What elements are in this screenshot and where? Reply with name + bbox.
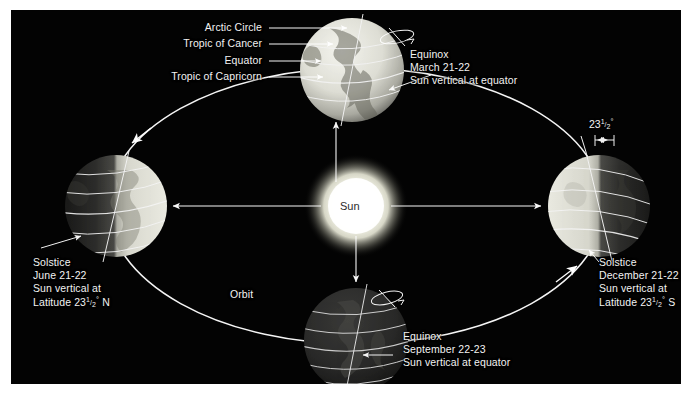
label-sun: Sun: [340, 200, 360, 212]
label-orbit: Orbit: [230, 288, 253, 301]
globe-december-solstice: [540, 135, 658, 265]
globe-september-equinox: [301, 284, 413, 384]
callout-tropic-of-cancer-label: Tropic of Cancer: [183, 37, 262, 49]
axis-tilt-degree-symbol: °: [610, 117, 613, 126]
label-june-solstice: Solstice June 21-22 Sun vertical at Lati…: [33, 256, 110, 309]
march-equinox-line2: March 21-22: [410, 61, 517, 74]
june-hemisphere: N: [99, 296, 110, 308]
december-solstice-line3: Sun vertical at: [599, 282, 679, 295]
december-latitude-prefix: Latitude 23: [599, 296, 652, 308]
september-equinox-line3: Sun vertical at equator: [403, 356, 510, 369]
december-solstice-line4: Latitude 231/2° S: [599, 296, 679, 309]
june-solstice-line4: Latitude 231/2° N: [33, 296, 110, 309]
december-latitude-fraction: 1/2: [652, 299, 662, 306]
callout-arctic-circle: Arctic Circle: [205, 21, 262, 34]
callout-equator-label: Equator: [225, 54, 262, 66]
callout-tropic-of-capricorn: Tropic of Capricorn: [171, 70, 262, 83]
december-solstice-line1: Solstice: [599, 256, 679, 269]
june-solstice-line2: June 21-22: [33, 269, 110, 282]
september-equinox-line1: Equinox: [403, 330, 510, 343]
sun-label: Sun: [340, 200, 360, 212]
december-hemisphere: S: [665, 296, 675, 308]
june-solstice-line1: Solstice: [33, 256, 110, 269]
december-solstice-line2: December 21-22: [599, 269, 679, 282]
axis-tilt-marker: [581, 135, 614, 152]
june-latitude-prefix: Latitude 23: [33, 296, 86, 308]
diagram-plate: Arctic Circle Tropic of Cancer Equator T…: [11, 10, 681, 384]
axis-tilt-value: 23: [589, 118, 601, 130]
globe-march-equinox: [293, 14, 415, 126]
callout-tropic-of-capricorn-label: Tropic of Capricorn: [171, 70, 262, 82]
label-march-equinox: Equinox March 21-22 Sun vertical at equa…: [410, 48, 517, 88]
march-equinox-line3: Sun vertical at equator: [410, 74, 517, 87]
callout-tropic-of-cancer: Tropic of Cancer: [183, 37, 262, 50]
globe-june-solstice: [57, 151, 175, 262]
label-axis-tilt: 231/2°: [589, 118, 613, 130]
axis-tilt-fraction: 1/2: [601, 121, 611, 128]
orbit-label: Orbit: [230, 288, 253, 300]
callout-arctic-circle-label: Arctic Circle: [205, 21, 262, 33]
label-december-solstice: Solstice December 21-22 Sun vertical at …: [599, 256, 679, 309]
diagram-vector-layer: [11, 10, 681, 384]
september-equinox-line2: September 22-23: [403, 343, 510, 356]
figure-canvas: Arctic Circle Tropic of Cancer Equator T…: [0, 0, 693, 398]
label-september-equinox: Equinox September 22-23 Sun vertical at …: [403, 330, 510, 370]
june-latitude-fraction: 1/2: [86, 299, 96, 306]
march-equinox-line1: Equinox: [410, 48, 517, 61]
leader-june-solstice: [41, 236, 81, 248]
callout-equator: Equator: [225, 54, 262, 67]
